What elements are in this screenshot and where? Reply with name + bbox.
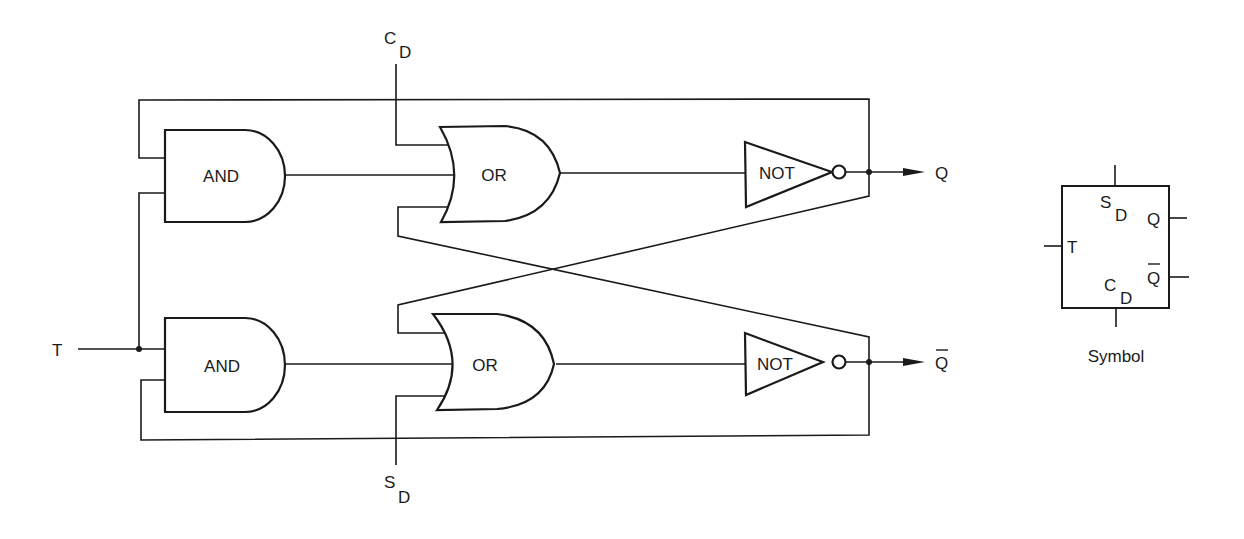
symbol-sd-main: S xyxy=(1100,193,1111,212)
inverter-bubble-upper xyxy=(833,166,846,179)
junction-q xyxy=(866,169,872,175)
not-upper-label: NOT xyxy=(759,164,795,183)
symbol-caption: Symbol xyxy=(1088,347,1145,366)
symbol-cd-sub: D xyxy=(1120,289,1132,308)
or-gate-upper: OR xyxy=(440,126,560,222)
cd-sub: D xyxy=(399,43,411,62)
junction-t xyxy=(136,346,142,352)
input-cd-label: C D xyxy=(384,29,411,62)
sd-sub: D xyxy=(398,488,410,507)
input-t-label: T xyxy=(52,341,62,360)
symbol-cd-main: C xyxy=(1104,276,1116,295)
symbol-q-label: Q xyxy=(1147,210,1160,229)
symbol-sd-sub: D xyxy=(1115,206,1127,225)
symbol-qbar-label: Q xyxy=(1147,269,1160,288)
and-upper-label: AND xyxy=(203,167,239,186)
cd-main: C xyxy=(384,29,396,48)
and-lower-label: AND xyxy=(204,357,240,376)
and-gate-lower: AND xyxy=(165,318,285,412)
arrow-qbar-icon xyxy=(903,358,925,366)
flip-flop-symbol: S D C D T Q Q Symbol xyxy=(1044,165,1189,366)
not-lower-label: NOT xyxy=(757,355,793,374)
or-lower-label: OR xyxy=(472,356,498,375)
junction-qbar xyxy=(866,359,872,365)
arrow-q-icon xyxy=(903,168,925,176)
sd-main: S xyxy=(384,473,395,492)
wire-cd-input xyxy=(396,64,450,145)
not-gate-upper: NOT xyxy=(745,142,846,207)
or-upper-label: OR xyxy=(481,166,507,185)
t-flip-flop-diagram: AND AND OR OR NOT NOT T C D S D Q Q xyxy=(0,0,1244,539)
inverter-bubble-lower xyxy=(833,356,846,369)
not-gate-lower: NOT xyxy=(745,333,846,395)
and-gate-upper: AND xyxy=(165,130,285,222)
qbar-text: Q xyxy=(935,354,948,373)
output-qbar-label: Q xyxy=(935,350,948,373)
output-q-label: Q xyxy=(935,164,948,183)
symbol-t-label: T xyxy=(1067,238,1077,257)
input-sd-label: S D xyxy=(384,473,410,507)
wire-t-branch-up xyxy=(139,193,165,349)
or-gate-lower: OR xyxy=(433,314,554,410)
